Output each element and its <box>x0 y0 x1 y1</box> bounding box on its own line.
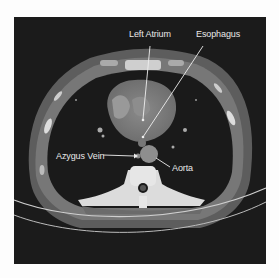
label-aorta: Aorta <box>172 163 193 173</box>
aorta <box>140 145 158 163</box>
label-left-atrium: Left Atrium <box>129 29 171 39</box>
label-azygus-vein: Azygus Vein <box>56 151 104 161</box>
ct-scan-image <box>0 0 279 278</box>
label-esophagus: Esophagus <box>196 29 240 39</box>
